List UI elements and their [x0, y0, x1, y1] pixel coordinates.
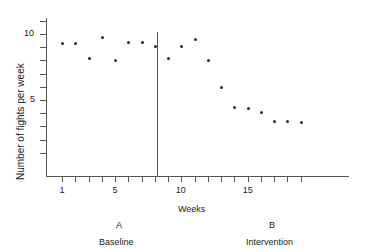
data-point [286, 120, 289, 123]
x-tick [248, 177, 249, 182]
x-axis-title: Weeks [178, 205, 205, 214]
x-tick-label: 10 [176, 186, 186, 195]
x-tick [181, 177, 182, 182]
data-point [167, 57, 170, 60]
data-point [88, 57, 91, 60]
y-tick [40, 140, 46, 141]
phase-divider-line [157, 32, 158, 177]
phase-a-letter: A [116, 221, 122, 230]
data-point [273, 120, 276, 123]
x-tick [155, 177, 156, 182]
x-tick [128, 177, 129, 182]
data-point [114, 59, 117, 62]
x-tick-label: 15 [243, 186, 253, 195]
data-point [247, 107, 250, 110]
x-tick [221, 177, 222, 182]
phase-b-letter: B [269, 221, 275, 230]
x-tick [168, 177, 169, 182]
data-point [74, 42, 77, 45]
x-tick [89, 177, 90, 182]
x-tick-label: 5 [112, 186, 117, 195]
data-point [300, 121, 303, 124]
y-tick-label: 5 [30, 95, 35, 104]
data-point [180, 45, 183, 48]
y-tick [40, 34, 46, 35]
y-tick [40, 153, 46, 154]
y-tick [40, 87, 46, 88]
y-tick [40, 126, 46, 127]
data-point [127, 41, 130, 44]
y-tick [40, 74, 46, 75]
data-point [207, 59, 210, 62]
data-point [141, 41, 144, 44]
scatter-chart: Number of fights per week 105 151015 Wee… [0, 0, 373, 252]
data-point [220, 86, 223, 89]
y-tick [40, 47, 46, 48]
data-point [260, 111, 263, 114]
data-point [233, 106, 236, 109]
y-tick [40, 113, 46, 114]
y-tick [40, 60, 46, 61]
x-tick [274, 177, 275, 182]
x-tick [301, 177, 302, 182]
x-tick [287, 177, 288, 182]
x-tick [62, 177, 63, 182]
x-tick [142, 177, 143, 182]
data-point [101, 36, 104, 39]
x-tick [115, 177, 116, 182]
x-tick [102, 177, 103, 182]
x-tick-label: 1 [59, 186, 64, 195]
x-tick [234, 177, 235, 182]
phase-a-name: Baseline [99, 238, 134, 247]
y-axis-title: Number of fights per week [16, 63, 26, 180]
x-tick [208, 177, 209, 182]
y-tick [40, 100, 46, 101]
x-tick [261, 177, 262, 182]
y-axis-line [46, 18, 47, 176]
phase-b-name: Intervention [246, 238, 293, 247]
y-tick-label: 10 [24, 29, 34, 38]
data-point [154, 45, 157, 48]
x-axis-line [46, 176, 349, 177]
x-tick [195, 177, 196, 182]
x-tick [75, 177, 76, 182]
y-tick [40, 21, 46, 22]
data-point [194, 38, 197, 41]
data-point [61, 42, 64, 45]
